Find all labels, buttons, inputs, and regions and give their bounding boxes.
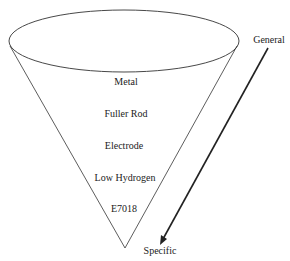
funnel-diagram: Metal Fuller Rod Electrode Low Hydrogen …	[0, 0, 290, 261]
level-electrode: Electrode	[105, 140, 143, 151]
specific-label: Specific	[144, 245, 177, 256]
level-e7018: E7018	[111, 203, 137, 214]
general-label: General	[253, 34, 285, 45]
cone-top-ellipse	[9, 10, 239, 72]
level-fuller-rod: Fuller Rod	[104, 108, 147, 119]
general-to-specific-arrow	[163, 48, 268, 239]
level-metal: Metal	[114, 76, 137, 87]
level-low-hydrogen: Low Hydrogen	[95, 172, 156, 183]
funnel-graphic	[0, 0, 290, 261]
